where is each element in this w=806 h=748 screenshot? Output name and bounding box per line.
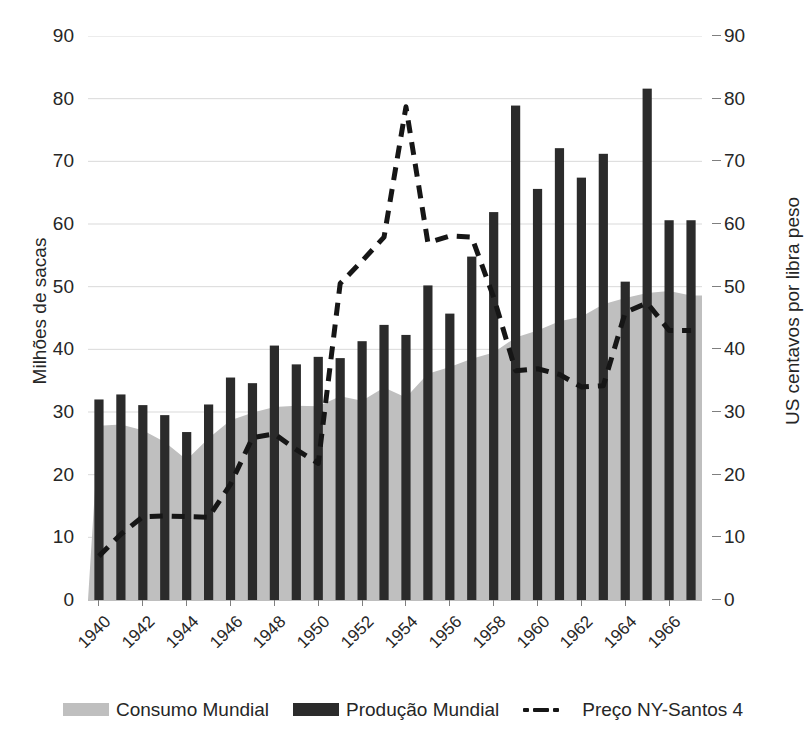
bar xyxy=(204,404,213,600)
bar xyxy=(138,405,147,600)
chart-svg xyxy=(88,36,702,602)
bar xyxy=(314,357,323,600)
bar xyxy=(401,335,410,600)
bar xyxy=(358,341,367,600)
chart-root: Milhões de sacas US centavos por libra p… xyxy=(0,0,806,748)
bar xyxy=(621,282,630,600)
bar xyxy=(467,257,476,600)
bar xyxy=(160,415,169,600)
legend-item-producao[interactable]: Produção Mundial xyxy=(293,700,499,719)
bar xyxy=(423,285,432,600)
bar xyxy=(336,358,345,600)
plot-area xyxy=(88,36,702,600)
bar xyxy=(116,394,125,600)
consumption-area xyxy=(88,291,702,600)
bar xyxy=(533,189,542,600)
bar xyxy=(643,89,652,600)
bar-swatch-icon xyxy=(293,703,339,716)
bar xyxy=(248,383,257,600)
bar xyxy=(94,399,103,600)
bar xyxy=(292,364,301,600)
bar xyxy=(665,220,674,600)
bar xyxy=(379,325,388,600)
legend-label-producao: Produção Mundial xyxy=(346,700,499,719)
legend-label-preco: Preço NY-Santos 4 xyxy=(582,700,743,719)
bar xyxy=(599,154,608,600)
bar xyxy=(445,314,454,600)
legend-label-consumo: Consumo Mundial xyxy=(116,700,269,719)
bar xyxy=(489,212,498,600)
legend-item-preco[interactable]: Preço NY-Santos 4 xyxy=(523,700,743,719)
dashed-line-swatch-icon xyxy=(523,703,575,716)
legend-item-consumo[interactable]: Consumo Mundial xyxy=(63,700,269,719)
area-swatch-icon xyxy=(63,703,109,716)
chart-legend: Consumo Mundial Produção Mundial Preço N… xyxy=(0,700,806,719)
bar xyxy=(270,346,279,600)
bar xyxy=(686,220,695,600)
